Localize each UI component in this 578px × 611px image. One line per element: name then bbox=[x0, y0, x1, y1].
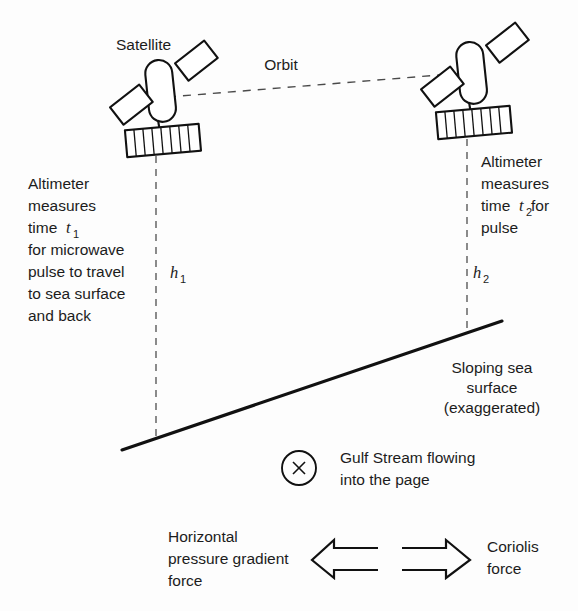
satellite-solar-panel-icon bbox=[436, 106, 512, 139]
h1-label: h 1 bbox=[170, 263, 186, 285]
altimetry-diagram: Orbit bbox=[0, 0, 578, 611]
gulf-stream-group: Gulf Stream flowing into the page bbox=[282, 449, 475, 488]
svg-text:into the page: into the page bbox=[340, 471, 430, 488]
svg-text:pulse: pulse bbox=[481, 219, 518, 236]
svg-text:t: t bbox=[66, 218, 71, 237]
svg-text:force: force bbox=[487, 560, 521, 577]
svg-text:and back: and back bbox=[28, 307, 91, 324]
svg-text:pulse to travel: pulse to travel bbox=[28, 263, 125, 280]
svg-text:measures: measures bbox=[28, 197, 96, 214]
svg-text:time: time bbox=[481, 197, 510, 214]
coriolis-label: Coriolis force bbox=[487, 538, 539, 577]
svg-text:for microwave: for microwave bbox=[28, 241, 124, 258]
left-annotation-block: Altimeter measures time t 1 for microwav… bbox=[28, 175, 125, 324]
svg-text:Horizontal: Horizontal bbox=[168, 528, 238, 545]
svg-text:1: 1 bbox=[180, 273, 186, 285]
orbit-dashed-line bbox=[168, 74, 452, 97]
svg-text:measures: measures bbox=[481, 175, 549, 192]
satellite-solar-panel-icon bbox=[125, 124, 201, 157]
svg-text:force: force bbox=[168, 572, 202, 589]
svg-text:Coriolis: Coriolis bbox=[487, 538, 539, 555]
into-page-cross-icon bbox=[282, 451, 316, 485]
satellite-left: Satellite bbox=[110, 36, 218, 157]
svg-text:1: 1 bbox=[73, 228, 79, 240]
pressure-gradient-label: Horizontal pressure gradient force bbox=[168, 528, 289, 589]
svg-text:h: h bbox=[170, 263, 178, 282]
svg-text:Altimeter: Altimeter bbox=[481, 153, 542, 170]
force-arrows-group bbox=[312, 540, 470, 578]
sea-surface-label: Sloping sea surface (exaggerated) bbox=[444, 359, 541, 416]
diagram-canvas: Orbit bbox=[0, 0, 578, 611]
svg-text:(exaggerated): (exaggerated) bbox=[444, 399, 541, 416]
svg-text:for: for bbox=[531, 197, 549, 214]
satellite-antenna-upper-icon bbox=[486, 23, 529, 63]
satellite-right bbox=[421, 23, 529, 139]
svg-text:pressure gradient: pressure gradient bbox=[168, 550, 289, 567]
svg-text:surface: surface bbox=[467, 379, 518, 396]
svg-text:Sloping sea: Sloping sea bbox=[451, 359, 532, 376]
pressure-gradient-arrow-icon bbox=[312, 540, 378, 578]
orbit-label: Orbit bbox=[264, 56, 298, 73]
satellite-antenna-upper-icon bbox=[175, 41, 218, 81]
svg-text:h: h bbox=[473, 263, 481, 282]
sea-surface-line bbox=[122, 321, 502, 450]
satellite-body-icon bbox=[144, 59, 177, 123]
svg-text:2: 2 bbox=[483, 273, 489, 285]
coriolis-arrow-icon bbox=[402, 540, 470, 578]
satellite-label: Satellite bbox=[116, 36, 171, 53]
svg-text:Altimeter: Altimeter bbox=[28, 175, 89, 192]
satellite-body-icon bbox=[455, 41, 488, 105]
right-annotation-block: Altimeter measures time t 2 for pulse bbox=[481, 153, 549, 236]
svg-text:t: t bbox=[519, 196, 524, 215]
svg-text:Gulf Stream flowing: Gulf Stream flowing bbox=[340, 449, 475, 466]
svg-text:time: time bbox=[28, 219, 57, 236]
h2-label: h 2 bbox=[473, 263, 489, 285]
svg-text:to sea surface: to sea surface bbox=[28, 285, 125, 302]
